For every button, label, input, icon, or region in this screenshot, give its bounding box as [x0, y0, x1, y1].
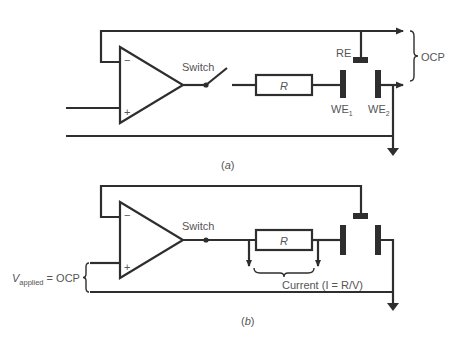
current-label: Current (I = R/V): [282, 279, 363, 291]
reference-electrode: [353, 57, 368, 63]
ocp-label: OCP: [421, 51, 445, 63]
switch-label: Switch: [182, 61, 214, 73]
caption-b: (b): [241, 315, 254, 327]
ocp-brace: [410, 31, 418, 81]
we2-label: WE2: [368, 103, 390, 117]
re-label: RE: [336, 47, 351, 59]
current-brace: [254, 268, 314, 277]
vapplied-label: Vapplied = OCP: [12, 272, 80, 287]
opamp-minus-label: −: [124, 209, 130, 221]
opamp-minus-label: −: [124, 54, 130, 66]
feedback-wire: [101, 186, 361, 217]
resistor-label: R: [280, 80, 288, 92]
wire: [381, 240, 393, 305]
opamp-plus-label: +: [124, 261, 130, 273]
working-electrode-1: [340, 70, 346, 98]
ground-arrow-icon: [387, 303, 399, 311]
ground-arrow-icon: [387, 148, 399, 156]
working-electrode-2: [375, 225, 381, 255]
resistor-label: R: [280, 235, 288, 247]
switch-label: Switch: [182, 220, 214, 232]
panel-a: − + Switch R RE WE1 WE2 OCP (a): [66, 31, 445, 171]
panel-b: − + Switch R Current (I = R/V) Vapplied …: [12, 186, 399, 327]
reference-electrode: [353, 213, 368, 219]
switch-pivot: [203, 237, 208, 242]
working-electrode-1: [340, 225, 346, 255]
working-electrode-2: [375, 70, 381, 98]
circuit-diagram: − + Switch R RE WE1 WE2 OCP (a): [0, 0, 458, 339]
vapplied-brace: [83, 263, 89, 292]
opamp-plus-label: +: [124, 106, 130, 118]
we1-label: WE1: [331, 103, 353, 117]
caption-a: (a): [221, 159, 234, 171]
